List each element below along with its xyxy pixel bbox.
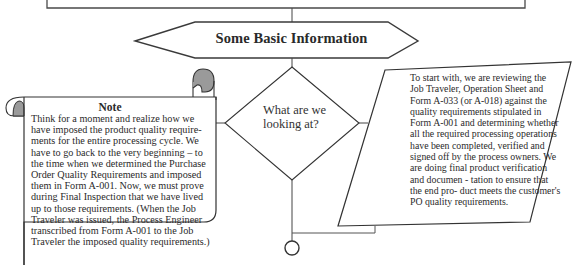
note-body: Think for a moment and realize how we ha… (31, 113, 211, 247)
header-label: Some Basic Information (195, 30, 388, 47)
off-page-connector-circle (285, 241, 299, 255)
decision-label: What are we looking at? (263, 104, 333, 131)
connector-description-return (292, 226, 375, 233)
note-title: Note (40, 101, 180, 113)
top-process-box (47, 0, 525, 8)
description-body: To start with, we are reviewing the Job … (410, 72, 562, 208)
